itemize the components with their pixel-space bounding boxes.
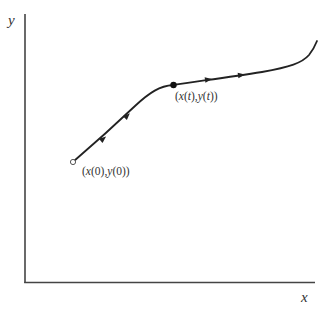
start-point-label-y: y <box>107 165 112 177</box>
start-point-param-x: 0 <box>95 165 101 177</box>
start-point-marker <box>70 159 75 164</box>
start-point-param-y: 0 <box>116 165 122 177</box>
current-point-label: (x(t),y(t)) <box>175 91 218 103</box>
parametric-curve-diagram <box>0 0 329 311</box>
current-point-label-x: x <box>179 90 184 102</box>
current-point-param-y: t <box>207 90 210 102</box>
x-axis-label: x <box>301 290 308 305</box>
current-point-marker <box>170 82 176 88</box>
current-point-param-x: t <box>188 90 191 102</box>
current-point-label-y: y <box>198 90 203 102</box>
y-axis-label: y <box>8 13 15 28</box>
start-point-label: (x(0),y(0)) <box>82 166 130 178</box>
start-point-label-x: x <box>86 165 91 177</box>
